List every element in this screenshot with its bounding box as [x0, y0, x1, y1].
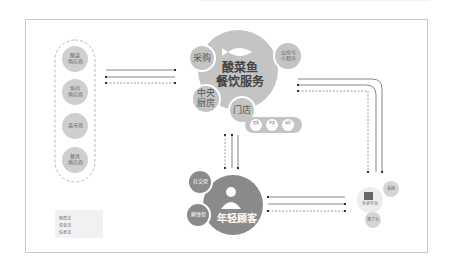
central-kitchen-label: 中央厨房 [192, 88, 220, 109]
supplier-label: 餐具供应商 [62, 154, 88, 166]
platform-label: 外卖平台 [356, 202, 384, 207]
partner-label: 美团 [383, 187, 399, 192]
customer-title: 年轻顾客 [212, 213, 262, 225]
supplier-label: 酸菜供应商 [62, 53, 88, 65]
channel-label: 堂食 [250, 122, 262, 125]
store-label: 门店 [229, 105, 255, 115]
supplier-label: 菜市场 [62, 123, 88, 129]
platform-icon [364, 192, 373, 200]
supplier-label: 鱼肉供应商 [62, 86, 88, 98]
legend-item: 物质流 [59, 215, 71, 221]
legend: 物质流 资金流 信息流 [55, 210, 103, 238]
person-icon [226, 187, 236, 197]
channel-label: 外卖 [266, 122, 278, 125]
service-title: 酸菜鱼餐饮服务 [210, 62, 270, 90]
partner-label: 饿了么 [365, 218, 381, 223]
customer-type: 社交型 [188, 179, 212, 185]
channel-label: 自提 [282, 122, 294, 125]
purchase-label: 采购 [189, 53, 215, 63]
legend-item: 信息流 [59, 229, 71, 235]
customer-type: 解馋型 [186, 212, 210, 218]
wechat-label: 公众号小程序 [275, 50, 301, 62]
legend-item: 资金流 [59, 222, 71, 228]
